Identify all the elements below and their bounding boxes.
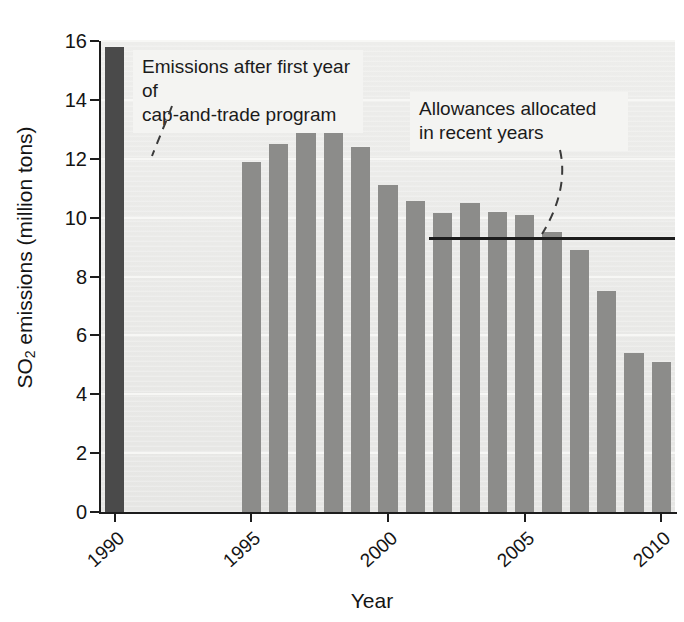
x-axis-tick [660, 514, 662, 522]
y-axis-title-text: SO2 emissions (million tons) [13, 126, 36, 388]
bar-2009 [624, 353, 643, 512]
x-axis-tick-label: 2010 [627, 528, 674, 573]
y-axis-tick [90, 158, 99, 160]
y-axis-tick [90, 511, 99, 513]
gridline [101, 40, 675, 42]
bar-2001 [406, 201, 425, 512]
y-axis-tick-label: 16 [49, 31, 87, 51]
x-axis-title-text: Year [291, 589, 393, 612]
x-axis-title: Year [0, 589, 684, 613]
y-axis-tick [90, 334, 99, 336]
bar-2006 [542, 232, 561, 512]
x-axis-tick-label: 2005 [490, 528, 537, 573]
y-axis-tick [90, 217, 99, 219]
bar-1996 [269, 144, 288, 512]
bar-1990 [105, 47, 124, 512]
annotation-cap-and-trade: Emissions after first year of cap-and-tr… [133, 50, 363, 133]
bar-1997 [296, 132, 315, 512]
bar-1998 [324, 129, 343, 512]
bar-1999 [351, 147, 370, 512]
y-axis-tick [90, 276, 99, 278]
bar-2000 [378, 185, 397, 512]
y-axis-tick [90, 393, 99, 395]
x-axis-tick-label: 1995 [217, 528, 264, 573]
y-axis-tick-label: 4 [49, 384, 87, 404]
y-axis-tick-label: 0 [49, 502, 87, 522]
bar-2008 [597, 291, 616, 512]
bar-2010 [652, 362, 671, 512]
y-axis-line [99, 41, 101, 514]
y-axis-title: SO2 emissions (million tons) [13, 28, 38, 488]
x-axis-tick [250, 514, 252, 522]
y-axis-tick-label: 14 [49, 90, 87, 110]
bar-2007 [570, 250, 589, 512]
allowances-reference-line [429, 237, 675, 240]
so2-emissions-bar-chart: 0246810121416 19901995200020052010 SO2 e… [0, 0, 684, 622]
x-axis-tick [524, 514, 526, 522]
x-axis-tick-label: 1990 [80, 528, 127, 573]
y-axis-tick-label: 12 [49, 149, 87, 169]
y-axis-tick [90, 452, 99, 454]
x-axis-tick [114, 514, 116, 522]
y-axis-tick-label: 10 [49, 208, 87, 228]
x-axis-tick-label: 2000 [354, 528, 401, 573]
annotation-allowances: Allowances allocated in recent years [410, 92, 628, 151]
y-axis-tick-label: 6 [49, 325, 87, 345]
y-axis-tick [90, 99, 99, 101]
bar-2003 [460, 203, 479, 512]
x-axis-tick [387, 514, 389, 522]
bar-1995 [242, 162, 261, 512]
y-axis-tick [90, 40, 99, 42]
gridline [101, 158, 675, 160]
y-axis-tick-label: 8 [49, 267, 87, 287]
bar-2005 [515, 215, 534, 512]
y-axis-tick-label: 2 [49, 443, 87, 463]
bar-2004 [488, 212, 507, 512]
bar-2002 [433, 213, 452, 512]
